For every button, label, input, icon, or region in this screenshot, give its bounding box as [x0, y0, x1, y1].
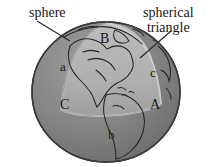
sphere-leader-line — [37, 21, 70, 41]
label-side-a: a — [60, 60, 66, 73]
label-spherical-triangle: sphericaltriangle — [143, 5, 194, 35]
label-spherical-triangle-line2: triangle — [147, 20, 190, 35]
label-vertex-b: B — [100, 32, 109, 46]
label-side-b: b — [108, 128, 115, 141]
label-vertex-a: A — [150, 98, 160, 112]
spherical-triangle-figure: sphere sphericaltriangle a b c A B C — [0, 0, 210, 167]
label-side-c: c — [150, 66, 156, 79]
label-spherical-triangle-line1: spherical — [143, 5, 194, 20]
label-sphere: sphere — [29, 6, 66, 20]
label-vertex-c: C — [60, 98, 69, 112]
